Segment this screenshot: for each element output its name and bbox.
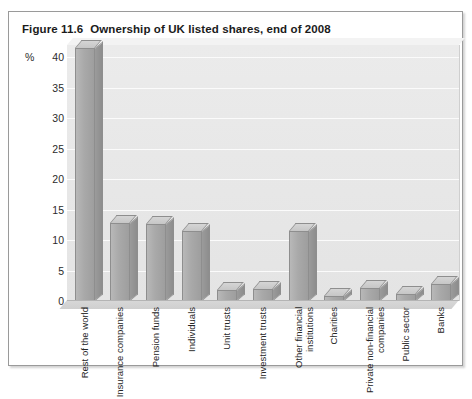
bar-column bbox=[360, 288, 380, 301]
plot-area bbox=[67, 45, 460, 301]
x-axis-category-label: Investment trusts bbox=[258, 307, 269, 379]
y-axis-tick-label: 20 bbox=[52, 173, 64, 185]
gridline bbox=[67, 88, 459, 89]
x-axis-category-label: Rest of the world bbox=[80, 307, 91, 378]
figure-container: Figure 11.6Ownership of UK listed shares… bbox=[8, 11, 463, 366]
bar-side-face bbox=[309, 224, 317, 301]
bar-front-face bbox=[75, 48, 95, 301]
bar-front-face bbox=[146, 224, 166, 301]
x-axis-category-label: Unit trusts bbox=[222, 307, 233, 350]
y-axis-tick-label: 5 bbox=[58, 265, 64, 277]
x-axis-category-label: Individuals bbox=[187, 307, 198, 352]
gridline bbox=[67, 210, 459, 211]
y-axis: % 0510152025303540 bbox=[21, 45, 67, 303]
bar-side-face bbox=[130, 216, 138, 301]
y-axis-tick-label: 35 bbox=[52, 82, 64, 94]
y-axis-tick-label: 25 bbox=[52, 143, 64, 155]
y-axis-unit-label: % bbox=[25, 51, 34, 63]
figure-title-text: Ownership of UK listed shares, end of 20… bbox=[90, 23, 331, 35]
y-axis-tick-label: 15 bbox=[52, 204, 64, 216]
bar-side-face bbox=[202, 224, 210, 301]
x-axis-category-label: Private non-financial companies bbox=[365, 307, 386, 399]
bar-front-face bbox=[431, 284, 451, 301]
figure-number: Figure 11.6 bbox=[22, 23, 83, 35]
x-axis-category-label: Insurance companies bbox=[115, 307, 126, 397]
x-axis-category-label: Charities bbox=[329, 307, 340, 345]
bar-column bbox=[182, 231, 202, 301]
x-axis-category-label: Public sector bbox=[401, 307, 412, 361]
bar-column bbox=[110, 223, 130, 301]
gridline bbox=[67, 118, 459, 119]
bar-front-face bbox=[289, 231, 309, 301]
x-axis-category-label: Banks bbox=[436, 307, 447, 333]
y-axis-tick-label: 40 bbox=[52, 51, 64, 63]
bar-column bbox=[431, 284, 451, 301]
y-axis-tick-label: 10 bbox=[52, 234, 64, 246]
bar-side-face bbox=[166, 217, 174, 301]
bar-side-face bbox=[95, 41, 103, 301]
gridline bbox=[67, 179, 459, 180]
bar-column bbox=[75, 48, 95, 301]
bar-column bbox=[289, 231, 309, 301]
gridline bbox=[67, 57, 459, 58]
figure-title: Figure 11.6Ownership of UK listed shares… bbox=[22, 23, 331, 35]
y-axis-tick-label: 30 bbox=[52, 112, 64, 124]
x-axis-labels: Rest of the worldInsurance companiesPens… bbox=[67, 307, 459, 399]
bar-column bbox=[146, 224, 166, 301]
x-axis-category-label: Other financial institutions bbox=[294, 307, 315, 399]
bar-front-face bbox=[110, 223, 130, 301]
bar-chart: % 0510152025303540 Rest of the worldInsu… bbox=[21, 45, 461, 363]
gridline bbox=[67, 149, 459, 150]
bar-front-face bbox=[182, 231, 202, 301]
plot-backplane-top bbox=[67, 38, 465, 45]
x-axis-line bbox=[67, 300, 459, 301]
bar-front-face bbox=[360, 288, 380, 301]
x-axis-category-label: Pension funds bbox=[151, 307, 162, 367]
